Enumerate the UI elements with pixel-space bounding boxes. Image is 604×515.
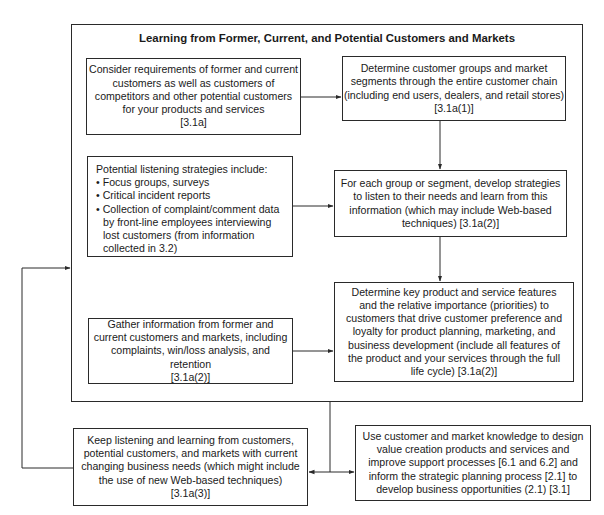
node-text: customers as well as customers of (113, 77, 275, 90)
node-listening-strategies: Potential listening strategies include: … (87, 156, 293, 257)
node-text: customers that drive customer preference… (346, 312, 562, 325)
node-text: Consider requirements of former and curr… (89, 63, 298, 76)
node-text: Keep listening and learning from custome… (87, 434, 294, 447)
node-text: business development (include all featur… (348, 339, 560, 352)
node-text: Use customer and market knowledge to des… (363, 430, 584, 443)
node-text: [3.1a(1)] (434, 102, 473, 115)
node-gather-information: Gather information from former and curre… (88, 318, 293, 384)
node-text: complaints, win/loss analysis, and reten… (89, 344, 292, 370)
node-text: [3.1a(3)] (171, 487, 210, 500)
node-text: Determine customer groups and market (361, 62, 548, 75)
node-text: the use of new Web-based techniques) (99, 474, 283, 487)
node-text: current customers and markets, including (94, 331, 288, 344)
diagram-title: Learning from Former, Current, and Poten… (71, 32, 583, 44)
node-text: information (which may include Web-based (349, 204, 551, 217)
node-keep-listening: Keep listening and learning from custome… (73, 428, 308, 506)
node-text: competitors and other potential customer… (95, 90, 292, 103)
node-text: [3.1a] (180, 116, 207, 129)
arrow-feedback-loop (22, 268, 73, 468)
node-text: techniques) [3.1a(2)] (402, 217, 499, 230)
node-text: Determine key product and service featur… (352, 286, 557, 299)
node-text: potential customers, and markets with cu… (84, 447, 298, 460)
node-text: life cycle) [3.1a(2)] (411, 365, 498, 378)
node-determine-features: Determine key product and service featur… (334, 282, 574, 382)
node-text: inform the strategic planning process [2… (369, 470, 577, 483)
bullet-item: • Critical incident reports (96, 189, 284, 202)
node-consider-requirements: Consider requirements of former and curr… (86, 58, 301, 135)
node-develop-strategies: For each group or segment, develop strat… (334, 170, 567, 237)
node-text: loyalty for product planning, marketing,… (353, 325, 556, 338)
node-text: improve support processes [6.1 and 6.2] … (368, 456, 578, 469)
node-text: to listen to their needs and learn from … (353, 190, 547, 203)
node-text: develop business opportunities (2.1) [3.… (376, 483, 570, 496)
node-use-knowledge: Use customer and market knowledge to des… (355, 425, 591, 501)
node-heading: Potential listening strategies include: (96, 163, 284, 176)
node-text: for your products and services (123, 103, 265, 116)
node-text: and the relative importance (priorities)… (359, 299, 549, 312)
bullet-item: • Collection of complaint/comment data b… (96, 203, 284, 256)
node-determine-groups: Determine customer groups and market seg… (342, 56, 566, 121)
node-text: [3.1a(2)] (171, 371, 210, 384)
node-text: For each group or segment, develop strat… (341, 177, 561, 190)
node-text: the product and your services through th… (348, 352, 560, 365)
node-text: (including end users, dealers, and retai… (344, 89, 564, 102)
node-text: segments through the entire customer cha… (351, 75, 558, 88)
node-text: changing business needs (which might inc… (81, 460, 299, 473)
node-text: value creation products and services and (377, 443, 570, 456)
node-text: Gather information from former and (107, 318, 273, 331)
bullet-item: • Focus groups, surveys (96, 176, 284, 189)
